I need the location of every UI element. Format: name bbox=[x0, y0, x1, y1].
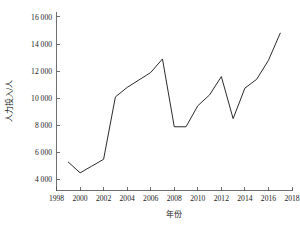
data-series-line bbox=[68, 33, 280, 173]
y-tick-label: 6 000 bbox=[35, 148, 52, 157]
x-tick-label: 2016 bbox=[261, 194, 276, 203]
x-tick-label: 2018 bbox=[284, 194, 299, 203]
x-tick-label: 1998 bbox=[49, 194, 64, 203]
x-tick-label: 2004 bbox=[120, 194, 135, 203]
y-tick-label: 12 000 bbox=[31, 67, 52, 76]
y-axis-title: 人力投入/人 bbox=[4, 80, 14, 122]
y-tick-label: 16 000 bbox=[31, 13, 52, 22]
x-axis: 1998200020022004200620082010201220142016… bbox=[49, 187, 300, 202]
x-tick-label: 2000 bbox=[72, 194, 87, 203]
data-series-group bbox=[68, 33, 280, 173]
x-tick-label: 2010 bbox=[190, 194, 205, 203]
x-tick-label: 2014 bbox=[237, 194, 252, 203]
line-chart-figure: 4 0006 0008 00010 00012 00014 00016 000 … bbox=[0, 0, 300, 229]
x-tick-label: 2006 bbox=[143, 194, 158, 203]
x-tick-label: 2012 bbox=[214, 194, 229, 203]
x-tick-label: 2002 bbox=[96, 194, 111, 203]
x-tick-label: 2008 bbox=[167, 194, 182, 203]
chart-canvas: 4 0006 0008 00010 00012 00014 00016 000 … bbox=[0, 0, 300, 229]
x-axis-title: 年份 bbox=[166, 209, 182, 219]
y-tick-label: 4 000 bbox=[35, 175, 52, 184]
y-axis: 4 0006 0008 00010 00012 00014 00016 000 bbox=[31, 12, 60, 191]
y-tick-label: 10 000 bbox=[31, 94, 52, 103]
y-tick-label: 8 000 bbox=[35, 121, 52, 130]
y-tick-label: 14 000 bbox=[31, 40, 52, 49]
